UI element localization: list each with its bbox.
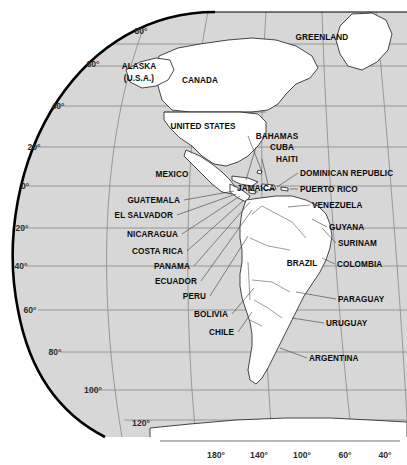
place-label-alaska-usa: (U.S.A.)	[124, 74, 154, 83]
latitude-label-3: 20°	[28, 142, 41, 152]
place-label-united-states: UNITED STATES	[170, 122, 235, 131]
map-figure: 80°60°40°20°0°20°40°60°80°100°120° 180°1…	[0, 0, 407, 465]
latitude-label-7: 60°	[24, 305, 37, 315]
longitude-label-3: 60°	[339, 450, 352, 460]
latitude-label-4: 0°	[21, 181, 29, 191]
land-puerto-rico	[281, 187, 288, 191]
place-label-argentina: ARGENTINA	[309, 354, 359, 363]
place-label-canada: CANADA	[182, 76, 218, 85]
place-label-guatemala: GUATEMALA	[127, 196, 180, 205]
latitude-label-8: 80°	[49, 347, 62, 357]
place-label-venezuela: VENEZUELA	[312, 201, 363, 210]
latitude-label-9: 100°	[84, 385, 102, 395]
longitude-label-4: 40°	[379, 450, 392, 460]
place-label-jamaica: JAMAICA	[237, 184, 275, 193]
latitude-label-0: 80°	[135, 26, 148, 36]
place-label-chile: CHILE	[209, 328, 234, 337]
place-label-guyana: GUYANA	[329, 223, 364, 232]
place-label-panama: PANAMA	[154, 262, 190, 271]
place-label-haiti: HAITI	[276, 155, 298, 164]
place-label-peru: PERU	[183, 292, 206, 301]
latitude-label-6: 40°	[15, 261, 28, 271]
place-label-mexico: MEXICO	[156, 170, 189, 179]
place-label-paraguay: PARAGUAY	[338, 295, 384, 304]
longitude-label-2: 100°	[293, 450, 311, 460]
longitude-label-1: 140°	[250, 450, 268, 460]
place-label-uruguay: URUGUAY	[326, 319, 367, 328]
place-label-colombia: COLOMBIA	[337, 260, 382, 269]
place-label-greenland: GREENLAND	[296, 33, 349, 42]
latitude-label-10: 120°	[132, 418, 150, 428]
place-label-bahamas: BAHAMAS	[256, 132, 299, 141]
place-label-alaska: ALASKA	[122, 62, 157, 71]
latitude-label-5: 20°	[16, 223, 29, 233]
place-label-el-salvador: EL SALVADOR	[115, 211, 173, 220]
place-label-dominican-republic: DOMINICAN REPUBLIC	[300, 169, 393, 178]
place-label-bolivia: BOLIVIA	[194, 310, 228, 319]
place-label-surinam: SURINAM	[338, 239, 377, 248]
latitude-label-2: 40°	[52, 101, 65, 111]
place-label-cuba: CUBA	[270, 143, 294, 152]
place-label-nicaragua: NICARAGUA	[127, 230, 178, 239]
latitude-label-1: 60°	[87, 59, 100, 69]
place-label-puerto-rico: PUERTO RICO	[300, 185, 358, 194]
place-label-costa-rica: COSTA RICA	[132, 247, 183, 256]
map-canvas	[0, 0, 407, 465]
place-label-brazil: BRAZIL	[287, 259, 318, 268]
longitude-label-0: 180°	[207, 450, 225, 460]
place-label-ecuador: ECUADOR	[155, 277, 197, 286]
